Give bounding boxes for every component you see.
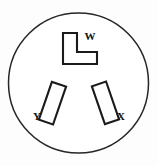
slot-w-label: W xyxy=(85,30,96,42)
receptacle-svg-canvas: W Y X xyxy=(0,0,157,166)
slot-x-label: X xyxy=(117,110,125,122)
receptacle-diagram: W Y X xyxy=(0,0,157,166)
slot-y-label: Y xyxy=(33,110,41,122)
receptacle-body-circle xyxy=(9,13,149,153)
